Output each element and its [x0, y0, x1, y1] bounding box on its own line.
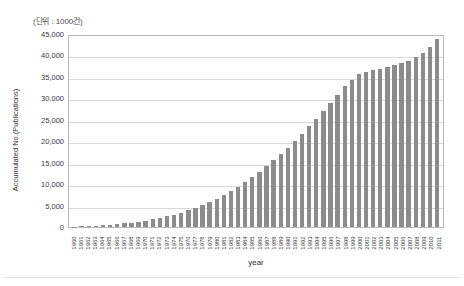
bar-slot	[242, 36, 249, 227]
bar[interactable]	[72, 227, 76, 228]
bar[interactable]	[122, 223, 126, 227]
bar[interactable]	[101, 225, 105, 227]
bar[interactable]	[392, 65, 396, 227]
x-tick-slot: 2011	[435, 229, 442, 257]
bar[interactable]	[279, 154, 283, 227]
bar[interactable]	[421, 53, 425, 227]
bar[interactable]	[335, 95, 339, 227]
bar[interactable]	[151, 219, 155, 227]
bar[interactable]	[293, 141, 297, 227]
bar-slot	[163, 36, 170, 227]
y-axis-title: Accumulated No.(Publications)	[9, 49, 23, 231]
bar[interactable]	[307, 126, 311, 227]
bar[interactable]	[215, 199, 219, 227]
bar[interactable]	[428, 47, 432, 227]
bar[interactable]	[222, 195, 226, 227]
x-tick-slot: 2010	[428, 229, 435, 257]
bar[interactable]	[94, 226, 98, 227]
bar[interactable]	[378, 69, 382, 227]
bar-slot	[341, 36, 348, 227]
bar[interactable]	[179, 213, 183, 227]
y-axis-tick: 20,000	[30, 137, 64, 147]
bar-slot	[398, 36, 405, 227]
bar[interactable]	[115, 224, 119, 227]
y-axis-tick: 30,000	[30, 94, 64, 104]
bar[interactable]	[136, 222, 140, 227]
bar[interactable]	[165, 216, 169, 227]
bar-slot	[199, 36, 206, 227]
y-axis-tick: 40,000	[30, 51, 64, 61]
bar[interactable]	[250, 177, 254, 227]
bar[interactable]	[207, 202, 211, 227]
bar[interactable]	[399, 63, 403, 227]
bar-slot	[362, 36, 369, 227]
bar-slot	[426, 36, 433, 227]
bar-slot	[178, 36, 185, 227]
bar-slot	[277, 36, 284, 227]
bar[interactable]	[271, 160, 275, 227]
bar[interactable]	[158, 218, 162, 227]
x-tick-slot: 1985	[249, 229, 256, 257]
bar-slot	[99, 36, 106, 227]
unit-annotation: (단위 : 1000건)	[33, 15, 83, 26]
bar[interactable]	[200, 205, 204, 227]
bar[interactable]	[87, 226, 91, 227]
bar-slot	[227, 36, 234, 227]
bar-slot	[128, 36, 135, 227]
bar[interactable]	[236, 187, 240, 227]
bar-slot	[334, 36, 341, 227]
bar-slot	[370, 36, 377, 227]
bar[interactable]	[286, 148, 290, 227]
x-tick-slot: 2004	[385, 229, 392, 257]
bar[interactable]	[257, 172, 261, 227]
bar-slot	[263, 36, 270, 227]
bar-slot	[377, 36, 384, 227]
bar[interactable]	[193, 208, 197, 227]
x-axis-tick-labels: 1960196119621963196419651966196719681969…	[68, 229, 444, 257]
y-axis-tick: 0	[30, 223, 64, 233]
bar[interactable]	[385, 67, 389, 227]
bar[interactable]	[350, 80, 354, 227]
y-axis-tick: 15,000	[30, 159, 64, 169]
bar[interactable]	[314, 119, 318, 227]
bar[interactable]	[435, 39, 439, 227]
bar-slot	[384, 36, 391, 227]
bar-slot	[291, 36, 298, 227]
bar-slot	[171, 36, 178, 227]
bar-slot	[391, 36, 398, 227]
bar-slot	[256, 36, 263, 227]
bar-slot	[348, 36, 355, 227]
bar[interactable]	[357, 74, 361, 227]
bar[interactable]	[406, 61, 410, 227]
bar[interactable]	[364, 72, 368, 227]
bar[interactable]	[186, 210, 190, 227]
bar[interactable]	[129, 223, 133, 227]
bar-slot	[192, 36, 199, 227]
bar[interactable]	[79, 226, 83, 227]
y-axis-tick: 35,000	[30, 73, 64, 83]
bar-slot	[313, 36, 320, 227]
bar-slot	[213, 36, 220, 227]
bar-slot	[121, 36, 128, 227]
bar[interactable]	[300, 134, 304, 227]
plot-area	[68, 35, 444, 228]
bar[interactable]	[328, 103, 332, 227]
bar[interactable]	[343, 86, 347, 227]
bar[interactable]	[414, 57, 418, 227]
y-axis-tick: 5,000	[30, 202, 64, 212]
bar[interactable]	[264, 166, 268, 227]
bar-slot	[306, 36, 313, 227]
bar-slot	[149, 36, 156, 227]
bar[interactable]	[172, 215, 176, 227]
bar[interactable]	[143, 221, 147, 227]
bar-slot	[107, 36, 114, 227]
bar-slot	[185, 36, 192, 227]
bar[interactable]	[229, 191, 233, 227]
bar-slot	[220, 36, 227, 227]
bar[interactable]	[321, 111, 325, 227]
bar[interactable]	[108, 225, 112, 227]
bar[interactable]	[243, 182, 247, 227]
bar-slot	[206, 36, 213, 227]
bar[interactable]	[371, 70, 375, 227]
bar-slot	[235, 36, 242, 227]
